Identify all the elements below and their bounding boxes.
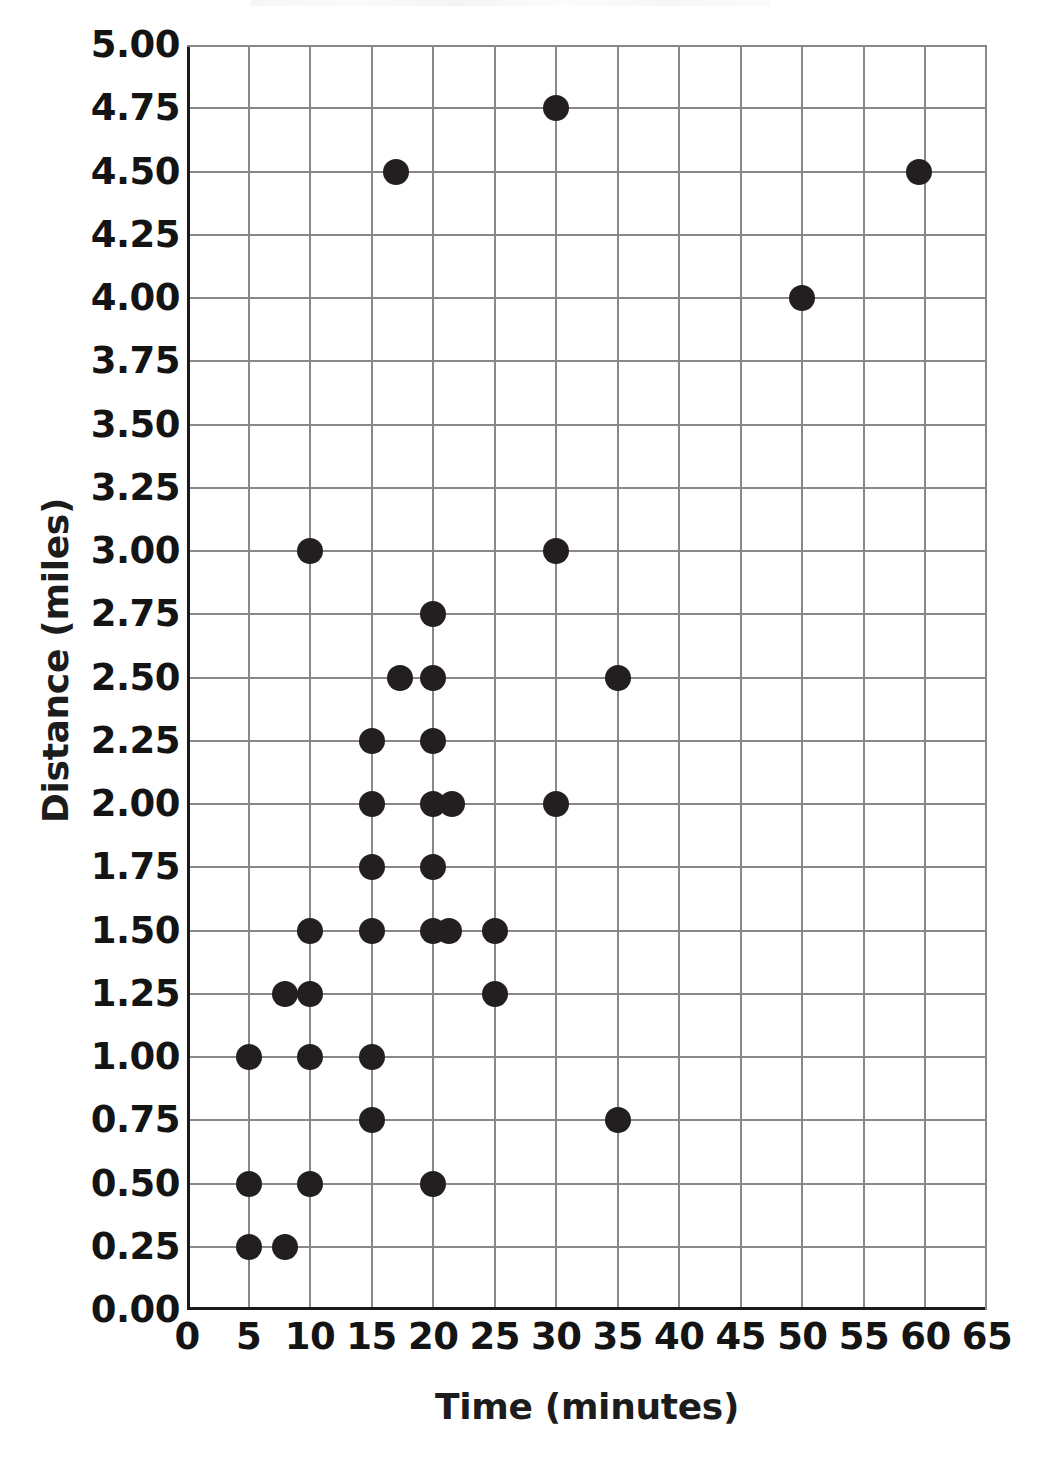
y-axis-tick-label: 5.00 [5, 26, 180, 63]
x-axis-title: Time (minutes) [187, 1386, 987, 1427]
data-point [906, 159, 932, 185]
data-point [420, 854, 446, 880]
y-axis-tick-label: 2.50 [5, 659, 180, 696]
data-point [383, 159, 409, 185]
y-axis-tick-label: 0.75 [5, 1101, 180, 1138]
y-axis-tick-label: 4.75 [5, 89, 180, 126]
y-axis-tick-label: 0.50 [5, 1165, 180, 1202]
data-point [359, 918, 385, 944]
data-point [420, 1171, 446, 1197]
data-point [420, 601, 446, 627]
y-axis-tick-label: 3.50 [5, 406, 180, 443]
y-axis-tick-label: 1.50 [5, 912, 180, 949]
data-point [543, 95, 569, 121]
y-axis-tick-labels: 0.000.250.500.751.001.251.501.752.002.25… [0, 0, 180, 1457]
data-point [482, 918, 508, 944]
y-axis-tick-label: 2.00 [5, 785, 180, 822]
data-point [439, 791, 465, 817]
data-point [297, 538, 323, 564]
data-point [359, 1107, 385, 1133]
data-point [420, 728, 446, 754]
data-point [436, 918, 462, 944]
data-point [605, 1107, 631, 1133]
data-point [387, 665, 413, 691]
y-axis-tick-label: 1.75 [5, 848, 180, 885]
data-point [272, 1234, 298, 1260]
y-axis-tick-label: 4.00 [5, 279, 180, 316]
scatter-plot-chart: Distance (miles) 0.000.250.500.751.001.2… [0, 0, 1037, 1457]
y-axis-tick-label: 4.50 [5, 153, 180, 190]
data-point [272, 981, 298, 1007]
data-point [359, 1044, 385, 1070]
y-axis-tick-label: 3.25 [5, 469, 180, 506]
data-point [236, 1234, 262, 1260]
data-point [543, 791, 569, 817]
data-points-layer [187, 45, 987, 1310]
data-point [297, 1171, 323, 1197]
y-axis-tick-label: 0.25 [5, 1228, 180, 1265]
y-axis-tick-label: 2.25 [5, 722, 180, 759]
y-axis-tick-label: 3.00 [5, 532, 180, 569]
data-point [236, 1171, 262, 1197]
y-axis-tick-label: 1.25 [5, 975, 180, 1012]
data-point [359, 854, 385, 880]
y-axis-tick-label: 4.25 [5, 216, 180, 253]
scan-artifact [250, 0, 770, 6]
data-point [420, 665, 446, 691]
data-point [297, 1044, 323, 1070]
y-axis-tick-label: 1.00 [5, 1038, 180, 1075]
data-point [359, 791, 385, 817]
data-point [297, 981, 323, 1007]
data-point [543, 538, 569, 564]
y-axis-tick-label: 3.75 [5, 342, 180, 379]
data-point [605, 665, 631, 691]
plot-area [187, 45, 987, 1310]
data-point [297, 918, 323, 944]
x-axis-tick-label: 65 [942, 1318, 1032, 1355]
data-point [789, 285, 815, 311]
data-point [236, 1044, 262, 1070]
data-point [359, 728, 385, 754]
y-axis-tick-label: 2.75 [5, 595, 180, 632]
data-point [482, 981, 508, 1007]
